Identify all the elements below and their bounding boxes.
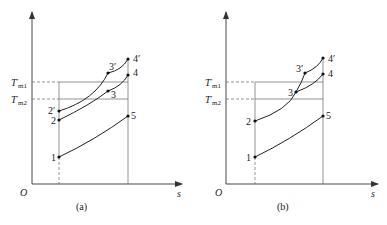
point-4-prime (126, 57, 129, 60)
label-1: 1 (51, 152, 56, 163)
tm2-label: T′m2 (205, 94, 222, 107)
label-4: 4 (133, 67, 138, 78)
point-1 (57, 155, 60, 158)
label-4-prime: 4′ (328, 53, 335, 64)
label-5: 5 (326, 110, 331, 121)
curve-2-3 (59, 91, 108, 120)
label-2: 2 (246, 116, 251, 127)
origin-label: O (215, 187, 222, 198)
tm2-label: T′m2 (11, 94, 28, 107)
curve-3p-4p (305, 58, 323, 73)
tm1-label: T′m1 (11, 77, 28, 90)
point-2 (253, 119, 256, 122)
panel-b: 1 5 2 3 3′ 4 4′ T′m1 T′m2 O s (b) (205, 12, 378, 213)
diagram-canvas: 1 5 2 2′ 3 3′ 4 4′ T′m1 T′m2 O s (a) (0, 0, 387, 225)
point-4 (321, 72, 324, 75)
point-2 (57, 118, 60, 121)
point-1 (253, 155, 256, 158)
point-2-prime (57, 109, 60, 112)
label-2: 2 (51, 115, 56, 126)
label-3: 3 (111, 89, 116, 100)
curve-2p-3p (59, 73, 108, 111)
curve-1-5 (59, 116, 128, 157)
label-3: 3 (288, 87, 293, 98)
point-3 (106, 89, 109, 92)
x-axis-label: s (177, 188, 181, 199)
label-2-prime: 2′ (48, 105, 55, 116)
point-3 (294, 90, 297, 93)
point-5 (126, 114, 129, 117)
x-axis-label: s (371, 188, 375, 199)
label-3-prime: 3′ (296, 63, 303, 74)
caption-b: (b) (277, 201, 289, 213)
label-5: 5 (131, 110, 136, 121)
caption-a: (a) (76, 201, 87, 213)
label-1: 1 (246, 152, 251, 163)
curve-3-4 (296, 74, 323, 92)
label-4-prime: 4′ (133, 53, 140, 64)
label-4: 4 (328, 68, 333, 79)
tm1-label: T′m1 (205, 77, 222, 90)
label-3-prime: 3′ (109, 61, 116, 72)
curve-1-5 (255, 116, 323, 157)
panel-a: 1 5 2 2′ 3 3′ 4 4′ T′m1 T′m2 O s (a) (11, 12, 182, 213)
point-4-prime (321, 56, 324, 59)
point-3-prime (303, 71, 306, 74)
origin-label: O (20, 187, 27, 198)
point-4 (126, 73, 129, 76)
point-5 (321, 114, 324, 117)
